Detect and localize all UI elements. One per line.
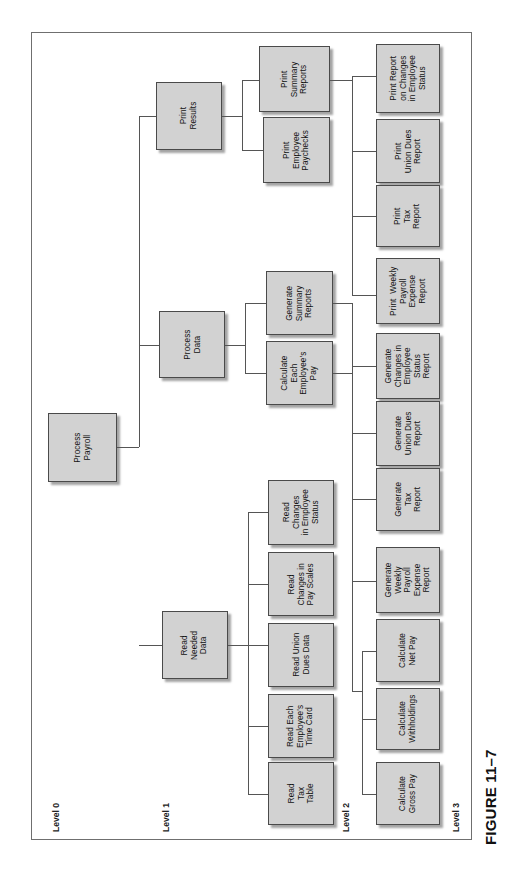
node-generate-changes-in-employee-status-report[interactable]: Generate Changes in Employee Status Repo… (376, 333, 440, 399)
connector-to-print-report-changes (352, 76, 376, 77)
node-print-summary-reports[interactable]: Print Summary Reports (259, 46, 330, 112)
connector-generate-summary-stub (333, 303, 352, 304)
node-label: Read Needed Data (181, 630, 210, 659)
connector-to-calculate-gross-pay (362, 794, 376, 795)
node-label: Print Union Dues Report (394, 129, 423, 173)
connector-calc-each-pay-drop (352, 373, 353, 691)
connector-read-needed-spine (248, 512, 249, 794)
node-label: Generate Changes in Employee Status Repo… (384, 345, 432, 387)
connector-to-calculate-withholdings (362, 719, 376, 720)
node-calculate-each-employees-pay[interactable]: Calculate Each Employee's Pay (266, 341, 333, 405)
connector-generate-summary-drop (352, 303, 353, 367)
connector-to-generate-union-dues-report (352, 433, 376, 434)
node-generate-union-dues-report[interactable]: Generate Union Dues Report (376, 401, 440, 466)
connector-to-generate-tax-report (352, 499, 376, 500)
node-label: Read Union Dues Data (291, 633, 310, 677)
node-label: Read Each Employee's Time Card (287, 704, 316, 747)
connector-process-data-stub (225, 345, 245, 346)
connector-print-summary-stub (330, 80, 352, 81)
connector-print-results-stub (222, 116, 242, 117)
node-label: Generate Summary Reports (285, 285, 314, 321)
node-label: Calculate Gross Pay (398, 774, 417, 813)
node-print-employee-paychecks[interactable]: Print Employee Paychecks (263, 117, 330, 183)
connector-to-generate-weekly-payroll-expense (352, 581, 376, 582)
node-read-each-employees-time-card[interactable]: Read Each Employee's Time Card (268, 694, 334, 758)
node-print-report-on-changes-in-employee-status[interactable]: Print Report on Changes in Employee Stat… (376, 44, 440, 113)
connector-to-print-employee-paychecks (242, 150, 263, 151)
connector-read-needed-stub (228, 645, 248, 646)
node-label: Read Tax Table (287, 783, 316, 803)
node-label: Process Payroll (73, 432, 92, 462)
node-label: Calculate Each Employee's Pay (280, 351, 318, 394)
connector-to-read-tax-table (248, 794, 268, 795)
connector-process-data-spine (245, 303, 246, 373)
node-calculate-net-pay[interactable]: Calculate Net Pay (376, 619, 440, 682)
connector-to-generate-changes-employee (352, 366, 376, 367)
figure-page: Process Payroll Print Results Process Da… (0, 0, 507, 875)
node-print-results[interactable]: Print Results (156, 82, 222, 150)
node-label: Read Changes in Employee Status (282, 489, 320, 535)
connector-to-print-summary-reports (242, 80, 259, 81)
node-read-changes-in-employee-status[interactable]: Read Changes in Employee Status (268, 480, 334, 545)
connector-to-calculate-net-pay (362, 651, 376, 652)
node-label: Generate Union Dues Report (394, 412, 423, 456)
node-process-payroll[interactable]: Process Payroll (48, 413, 117, 482)
node-print-weekly-payroll-expense-report[interactable]: Print Weekly Payroll Expense Report (376, 258, 440, 324)
connector-to-generate-summary-reports (245, 303, 266, 304)
node-process-data[interactable]: Process Data (159, 311, 225, 378)
connector-to-read-changes-pay-scales (248, 584, 268, 585)
connector-to-read-changes-employee-status (248, 512, 268, 513)
node-read-union-dues-data[interactable]: Read Union Dues Data (268, 623, 334, 687)
connector-to-print-tax-report (352, 216, 376, 217)
connector-l0-to-process-data (139, 345, 159, 346)
node-generate-weekly-payroll-expense-report[interactable]: Generate Weekly Payroll Expense Report (376, 547, 440, 613)
node-label: Calculate Net Pay (398, 633, 417, 668)
node-label: Read Changes in Pay Scales (287, 563, 316, 605)
node-calculate-gross-pay[interactable]: Calculate Gross Pay (376, 762, 440, 825)
node-label: Print Tax Report (394, 203, 423, 228)
node-label: Print Weekly Payroll Expense Report (389, 266, 427, 315)
connector-to-read-each-employee-time-card (248, 726, 268, 727)
connector-to-calculate-each-employees-pay (245, 373, 266, 374)
connector-l0-to-print-results (139, 116, 156, 117)
connector-print-results-spine (242, 80, 243, 150)
connector-print-summary-spine (352, 76, 353, 295)
node-read-changes-in-pay-scales[interactable]: Read Changes in Pay Scales (268, 552, 334, 616)
node-generate-tax-report[interactable]: Generate Tax Report (376, 468, 440, 531)
connector-l0-spine (139, 116, 140, 447)
node-read-tax-table[interactable]: Read Tax Table (268, 762, 334, 825)
node-label: Print Report on Changes in Employee Stat… (389, 55, 427, 101)
node-calculate-withholdings[interactable]: Calculate Withholdings (376, 688, 440, 750)
node-label: Generate Weekly Payroll Expense Report (384, 563, 432, 598)
node-print-union-dues-report[interactable]: Print Union Dues Report (376, 119, 440, 183)
node-generate-summary-reports[interactable]: Generate Summary Reports (266, 271, 333, 335)
connector-calc-spine-join (352, 691, 362, 692)
connector-calc-spine (362, 651, 363, 794)
connector-root-stub (117, 447, 139, 448)
level-caption-2: Level 2 (341, 803, 351, 832)
level-caption-1: Level 1 (161, 803, 171, 832)
connector-calc-each-pay-stub (333, 373, 352, 374)
connector-to-print-union-dues-report (352, 151, 376, 152)
node-print-tax-report[interactable]: Print Tax Report (376, 185, 440, 247)
node-label: Process Data (182, 329, 201, 359)
figure-caption: FIGURE 11–7 (482, 749, 499, 845)
level-caption-0: Level 0 (51, 803, 61, 832)
node-label: Print Summary Reports (280, 61, 309, 97)
node-label: Generate Tax Report (394, 482, 423, 517)
connector-to-read-union-dues-data (248, 645, 268, 646)
connector-l0-to-read-needed (139, 645, 162, 646)
node-label: Calculate Withholdings (398, 695, 417, 743)
node-label: Print Results (179, 102, 198, 130)
node-read-needed-data[interactable]: Read Needed Data (162, 611, 228, 679)
node-label: Print Employee Paychecks (282, 130, 311, 171)
connector-to-print-weekly-payroll-expense (352, 295, 376, 296)
level-caption-3: Level 3 (451, 803, 461, 832)
